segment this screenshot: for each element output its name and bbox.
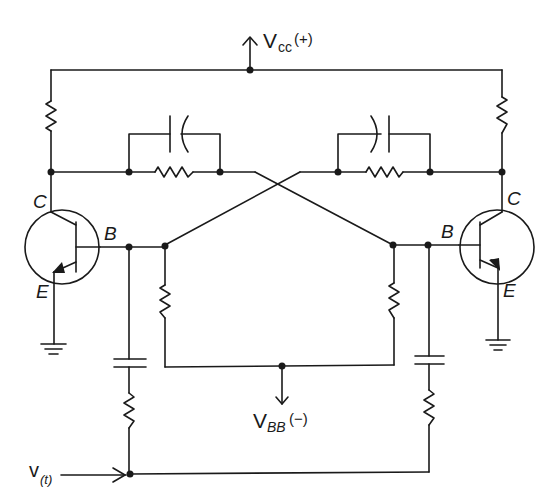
vbb-subscript: BB [267, 419, 286, 435]
vbb-polarity: (−) [289, 410, 308, 427]
left-emitter-label: E [36, 281, 49, 302]
input-signal: v (t) [29, 459, 126, 487]
left-npn-transistor: C B E [25, 172, 117, 344]
circuit-diagram: V cc (+) [0, 0, 559, 496]
left-base-label: B [104, 223, 117, 244]
right-base-bias-resistor [389, 245, 399, 365]
cross-wire-right-to-left-base [165, 172, 300, 245]
right-collector-resistor [497, 70, 507, 172]
vcc-label: V [263, 29, 277, 52]
vcc-subscript: cc [278, 39, 292, 55]
right-ground-icon [486, 340, 510, 350]
vin-subscript: (t) [40, 472, 52, 487]
vin-label: v [29, 459, 39, 481]
left-collector-label: C [33, 191, 47, 212]
left-base-bias-resistor [160, 246, 170, 367]
right-emitter-label: E [503, 280, 516, 301]
left-rc-network [129, 116, 255, 177]
left-ground-icon [41, 344, 66, 354]
left-trigger-branch [114, 247, 146, 474]
vbb-label: V [253, 409, 267, 432]
cross-wire-left-to-right-base [255, 172, 393, 245]
right-npn-transistor: C B E [441, 172, 534, 340]
right-rc-network [300, 116, 506, 177]
left-collector-resistor [46, 70, 56, 172]
vbb-supply: V BB (−) [253, 366, 308, 435]
vcc-supply: V cc (+) [243, 29, 313, 74]
right-base-label: B [441, 221, 454, 242]
right-trigger-branch [415, 245, 444, 472]
right-collector-label: C [507, 188, 521, 209]
vcc-polarity: (+) [294, 30, 313, 47]
trigger-input-rail [130, 472, 429, 474]
